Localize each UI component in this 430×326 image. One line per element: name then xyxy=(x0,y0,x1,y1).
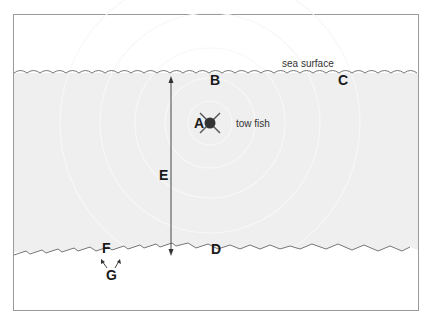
label-b: B xyxy=(210,72,220,88)
label-c: C xyxy=(338,72,348,88)
sonar-geometry-diagram: sea surface B C A tow fish E D F G xyxy=(0,0,430,326)
label-g: G xyxy=(106,267,117,283)
label-d: D xyxy=(211,241,221,257)
sea-surface-label: sea surface xyxy=(282,58,334,69)
water-column xyxy=(14,73,418,252)
label-f: F xyxy=(102,240,111,256)
towfish-label: tow fish xyxy=(236,118,270,129)
label-e: E xyxy=(159,167,168,183)
label-a: A xyxy=(194,115,204,131)
